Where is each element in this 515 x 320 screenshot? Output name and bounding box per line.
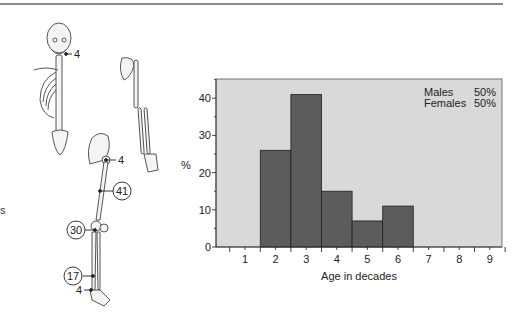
bar-2 bbox=[260, 150, 291, 247]
legend-value-females: 50% bbox=[474, 97, 496, 109]
y-tick-label: 20 bbox=[199, 167, 211, 179]
bar-5 bbox=[352, 221, 383, 247]
y-axis-label: % bbox=[181, 159, 191, 171]
legend-label-females: Females bbox=[424, 97, 467, 109]
x-tick-label: 9 bbox=[487, 253, 493, 265]
x-axis-label: Age in decades bbox=[321, 270, 397, 282]
x-tick-label: 2 bbox=[273, 253, 279, 265]
x-tick-label: 4 bbox=[334, 253, 340, 265]
x-tick-label: 1 bbox=[242, 253, 248, 265]
bar-4 bbox=[322, 191, 353, 247]
bar-3 bbox=[291, 94, 322, 247]
x-tick-label: 8 bbox=[456, 253, 462, 265]
x-tick-label: 3 bbox=[303, 253, 309, 265]
x-tick-label: 6 bbox=[395, 253, 401, 265]
y-tick-label: 40 bbox=[199, 92, 211, 104]
bar-6 bbox=[383, 206, 414, 247]
y-tick-label: 0 bbox=[205, 241, 211, 253]
y-tick-label: 30 bbox=[199, 129, 211, 141]
x-tick-label: 7 bbox=[426, 253, 432, 265]
y-tick-label: 10 bbox=[199, 204, 211, 216]
x-tick-label: 5 bbox=[364, 253, 370, 265]
histogram-chart: 010203040123456789 % Age in decades Male… bbox=[0, 0, 515, 320]
